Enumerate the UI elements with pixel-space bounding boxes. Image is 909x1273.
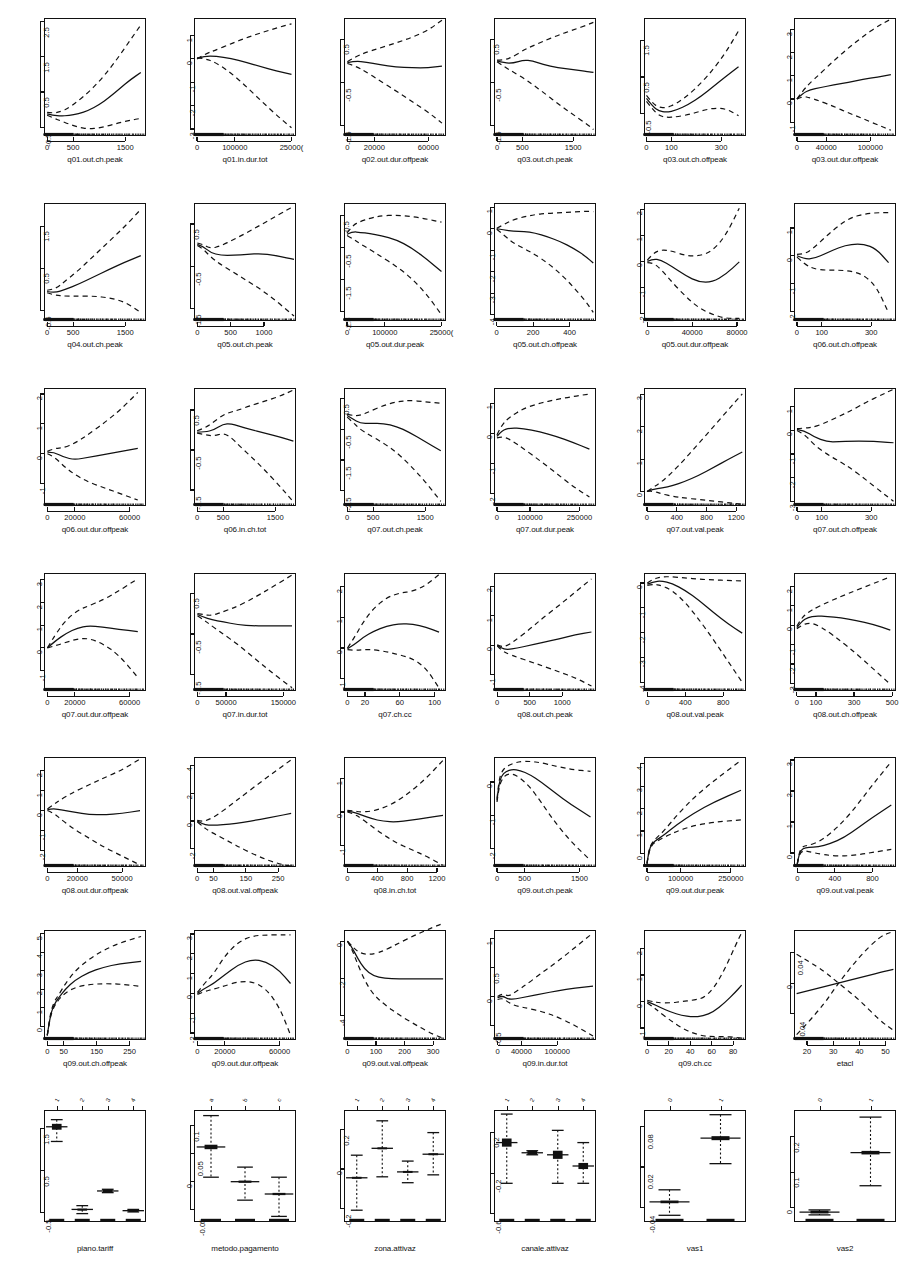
confidence-band-line [647,820,741,864]
x-tick-label: 100000 [545,1047,570,1056]
x-axis-title: vas2 [837,1244,854,1253]
x-tick [263,322,264,327]
factor-level-label: 1 [53,1097,60,1103]
x-axis-spine [797,511,871,512]
confidence-band-line [647,577,742,583]
x-tick-label: 200 [398,1047,411,1056]
plot-body [494,930,596,1040]
x-tick-label: 30 [829,1047,837,1056]
confidence-band-line [347,650,439,688]
x-axis-title: q08.out.dur.offpeak [62,886,128,895]
x-tick [436,868,437,873]
rug-plot [44,864,143,867]
x-tick-label: 0 [645,1047,649,1056]
y-axis-spine [40,226,41,310]
plot-body [494,573,596,691]
x-tick-label: 500 [217,513,230,522]
x-tick-label: 1500 [117,328,134,337]
x-tick [676,507,677,512]
factor-level-label: 0 [666,1097,673,1103]
x-axis-spine [197,141,291,142]
x-tick-label: 60 [707,1047,715,1056]
fit-curve [47,961,141,1035]
confidence-band-line [347,760,443,811]
x-tick-label: 0 [645,698,649,707]
x-tick [721,137,722,142]
rug-plot [494,318,593,321]
x-tick [283,692,284,697]
x-tick [347,137,348,142]
y-axis-spine [790,1137,791,1208]
y-axis-spine [490,403,491,494]
x-tick-label: 500 [224,328,237,337]
x-tick-label: 50 [881,1047,889,1056]
factor-level-label: 3 [554,1097,561,1103]
y-axis-spine [640,949,641,1029]
x-axis-spine [497,511,580,512]
rug-plot [194,1037,293,1040]
x-axis-title: q03.out.ch.peak [517,155,572,164]
confidence-band-line [647,585,742,683]
confidence-band-line [797,762,891,864]
y-axis-spine [340,941,341,1016]
plot-body [794,930,896,1040]
x-tick [579,868,580,873]
x-axis-spine [497,141,573,142]
x-tick [375,1041,376,1046]
x-tick [434,692,435,697]
y-axis-spine [40,1129,41,1213]
factor-level-box [496,1114,517,1222]
plot-body [794,18,896,136]
x-tick-label: 100000 [668,874,693,883]
x-tick-label: 0 [45,698,49,707]
rug-plot [44,1037,144,1040]
fit-curve [497,60,593,72]
x-tick-label: 0 [195,1047,199,1056]
confidence-band-line [347,20,442,62]
x-tick [647,1041,648,1046]
x-axis-spine [797,696,892,697]
plot-body [194,18,296,136]
x-tick-label: 0 [495,698,499,707]
x-tick-label: 25000( [280,143,304,152]
factor-level-box [547,1130,568,1221]
factor-level-box [800,1210,840,1222]
plot-body [344,757,446,867]
x-tick [711,1041,712,1046]
plot-body [494,203,596,321]
x-tick-label: 0 [795,328,799,337]
x-tick-label: 0 [645,874,649,883]
factor-level-box [851,1117,891,1222]
rug-plot [644,864,743,867]
x-tick [647,692,648,697]
x-tick-label: 0 [495,1047,499,1056]
x-tick-label: 1500 [571,874,588,883]
x-tick [497,1041,498,1046]
rug-plot [644,688,743,691]
factor-level-label: 0 [816,1097,823,1103]
confidence-band-line [347,575,439,649]
plot-body [344,18,446,136]
x-axis-spine [197,1045,279,1046]
x-axis-spine [47,1045,129,1046]
x-tick [230,322,231,327]
x-axis-spine [347,141,428,142]
x-tick-label: 150 [90,1047,103,1056]
x-tick-label: 0 [195,328,199,337]
factor-level-tick [108,1106,109,1110]
plot-body [194,573,296,691]
x-tick [347,1041,348,1046]
y-axis-spine [490,207,491,314]
x-tick-label: 1500 [565,143,582,152]
confidence-band-line [647,491,742,504]
x-tick-label: 20 [361,698,369,707]
confidence-band-line [646,101,738,117]
factor-level-tick [433,1106,434,1110]
x-axis-title: q06.out.ch.offpeak [813,340,877,349]
factor-level-label: 1 [867,1097,874,1103]
x-tick-label: 20000 [214,1047,235,1056]
x-tick-label: 0 [195,513,199,522]
x-tick-label: 100000 [372,328,397,337]
confidence-band-line [47,115,141,128]
x-tick-label: 500 [67,328,80,337]
